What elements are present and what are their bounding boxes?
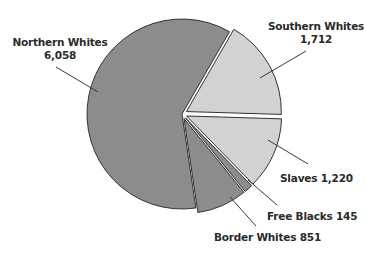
leader-border — [230, 197, 256, 226]
label-slaves: Slaves 1,220 — [280, 172, 353, 185]
label-free-blacks-text: Free Blacks 145 — [267, 210, 357, 223]
leader-free-blacks — [248, 180, 277, 205]
label-border-whites-text: Border Whites 851 — [214, 231, 321, 244]
label-northern-name: Northern Whites — [10, 36, 110, 49]
label-border-whites: Border Whites 851 — [214, 231, 321, 244]
label-free-blacks: Free Blacks 145 — [267, 210, 357, 223]
leader-northern — [56, 67, 98, 92]
label-southern-name: Southern Whites — [266, 20, 366, 33]
label-northern-whites: Northern Whites 6,058 — [10, 36, 110, 62]
label-northern-value: 6,058 — [10, 49, 110, 62]
label-southern-value: 1,712 — [266, 33, 366, 46]
label-slaves-text: Slaves 1,220 — [280, 172, 353, 185]
label-southern-whites: Southern Whites 1,712 — [266, 20, 366, 46]
